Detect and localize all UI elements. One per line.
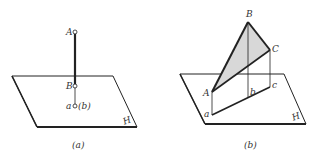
plane-h-a-left-edge [12,76,37,127]
projection-ac [212,87,270,115]
label-b-paren: (b) [78,101,91,111]
label-b-upper: B [65,81,73,91]
figure-a: A B a (b) H (a) [12,27,137,150]
point-a-upper [73,30,77,34]
label-a-upper: A [65,27,73,37]
label-c-upper: C [272,44,279,54]
plane-h-b-left-edge [180,74,205,124]
label-b-lower: b [250,87,256,97]
label-c-lower: c [272,80,277,90]
label-b-upper-b: B [245,9,253,19]
figure-b: B C A b c a H (b) [180,9,306,150]
point-ab-projection [73,104,77,108]
caption-a: (a) [72,140,85,150]
plane-label-h-a: H [121,115,133,127]
projection-diagram: A B a (b) H (a) B C A b c a H (b) [0,0,318,164]
label-a-upper-b: A [202,88,210,98]
caption-b: (b) [244,140,257,150]
plane-h-b [180,74,306,124]
plane-label-h-b: H [290,111,302,123]
label-a-lower-b: a [204,109,209,119]
label-a-lower: a [66,101,71,111]
point-b-upper [73,84,77,88]
